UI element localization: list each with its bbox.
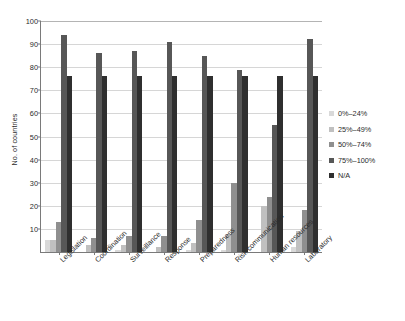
legend-swatch-icon: [329, 142, 334, 147]
x-label-slot: Legislation: [40, 252, 75, 312]
legend-swatch-icon: [329, 111, 334, 116]
y-tick-label: 20: [30, 201, 38, 210]
legend-swatch-icon: [329, 173, 334, 178]
bar: [277, 76, 282, 252]
bar-group: [287, 21, 322, 252]
bar: [137, 76, 142, 252]
y-tick-label: 40: [30, 155, 38, 164]
legend-swatch-icon: [329, 127, 334, 132]
y-tick-label: 30: [30, 178, 38, 187]
legend-label: N/A: [338, 171, 350, 180]
legend-label: 50%–74%: [338, 140, 371, 149]
bar-group: [76, 21, 111, 252]
x-label-slot: Surveillance: [110, 252, 145, 312]
legend-item: 50%–74%: [329, 140, 375, 149]
x-label-slot: Preparedness: [181, 252, 216, 312]
y-tick-label: 10: [30, 224, 38, 233]
x-label-slot: Coordination: [75, 252, 110, 312]
bar: [67, 76, 72, 252]
legend-swatch-icon: [329, 158, 334, 163]
x-label-slot: Response: [145, 252, 180, 312]
chart-figure: No. of countries 0102030405060708090100 …: [0, 0, 405, 321]
bar: [313, 76, 318, 252]
bar-group: [217, 21, 252, 252]
y-tick-label: 80: [30, 63, 38, 72]
bar-group: [41, 21, 76, 252]
bar: [242, 76, 247, 252]
chart-legend: 0%–24%25%–49%50%–74%75%–100%N/A: [329, 109, 375, 180]
bar: [172, 76, 177, 252]
y-tick-label: 70: [30, 86, 38, 95]
bar-group: [146, 21, 181, 252]
bar-group: [182, 21, 217, 252]
x-label-slot: Risk communication: [216, 252, 251, 312]
legend-label: 0%–24%: [338, 109, 367, 118]
bar: [102, 76, 107, 252]
x-label-slot: Laboratory: [286, 252, 321, 312]
legend-item: 25%–49%: [329, 125, 375, 134]
legend-item: 0%–24%: [329, 109, 375, 118]
legend-item: N/A: [329, 171, 375, 180]
y-tick-label: 60: [30, 109, 38, 118]
y-tick-label: 100: [26, 17, 38, 26]
bar: [207, 76, 212, 252]
legend-label: 75%–100%: [338, 156, 375, 165]
bar-group: [111, 21, 146, 252]
legend-item: 75%–100%: [329, 156, 375, 165]
x-axis-labels: LegislationCoordinationSurveillanceRespo…: [40, 252, 321, 312]
x-label-slot: Human resources: [251, 252, 286, 312]
legend-label: 25%–49%: [338, 125, 371, 134]
y-axis-title: No. of countries: [10, 80, 19, 200]
y-tick-label: 90: [30, 40, 38, 49]
y-tick-label: 50: [30, 132, 38, 141]
